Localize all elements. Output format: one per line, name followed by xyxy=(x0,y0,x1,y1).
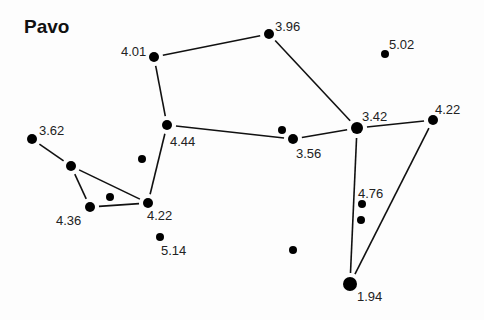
star-dot xyxy=(357,216,365,224)
star-dot xyxy=(264,29,274,39)
star-magnitude-label: 5.02 xyxy=(389,38,414,51)
star-magnitude-label: 3.56 xyxy=(296,147,321,160)
constellation-line xyxy=(275,41,350,121)
star-dot xyxy=(66,161,76,171)
star-dot xyxy=(27,134,37,144)
star-magnitude-label: 4.22 xyxy=(435,103,460,116)
star-dot xyxy=(85,202,95,212)
star-dot xyxy=(343,277,357,291)
star-magnitude-label: 4.36 xyxy=(56,214,81,227)
star-magnitude-label: 3.96 xyxy=(275,20,300,33)
star-dot xyxy=(358,200,366,208)
star-magnitude-label: 3.62 xyxy=(39,124,64,137)
star-magnitude-label: 4.22 xyxy=(147,209,172,222)
star-magnitude-label: 1.94 xyxy=(357,290,382,303)
star-dot xyxy=(289,246,297,254)
star-magnitude-label: 4.76 xyxy=(358,187,383,200)
star-dot xyxy=(138,155,146,163)
constellation-line xyxy=(150,134,165,195)
star-dot xyxy=(162,120,172,130)
constellation-line xyxy=(156,66,166,116)
constellation-line xyxy=(75,174,86,199)
constellation-line xyxy=(39,144,63,161)
constellation-line xyxy=(355,128,429,274)
constellation-line xyxy=(163,36,260,55)
star-dot xyxy=(278,126,286,134)
star-magnitude-label: 3.42 xyxy=(362,110,387,123)
constellation-line xyxy=(99,204,139,207)
constellation-chart: Pavo 4.013.965.024.443.624.364.225.143.5… xyxy=(0,0,484,320)
star-dot xyxy=(381,50,389,58)
star-dot xyxy=(156,233,164,241)
star-dot xyxy=(143,198,153,208)
star-dot xyxy=(288,134,298,144)
star-dot xyxy=(149,52,159,62)
star-magnitude-label: 5.14 xyxy=(161,244,186,257)
constellation-line xyxy=(350,138,356,273)
star-dot xyxy=(106,193,114,201)
constellation-line xyxy=(302,130,347,138)
star-magnitude-label: 4.01 xyxy=(121,45,146,58)
star-magnitude-label: 4.44 xyxy=(170,135,195,148)
